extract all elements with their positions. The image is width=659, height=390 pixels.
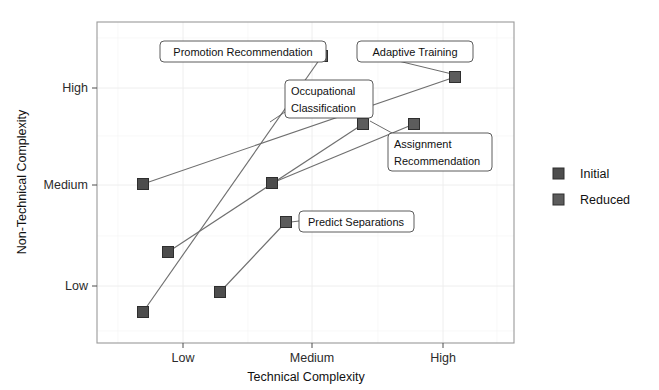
y-tick-label-high: High — [62, 81, 88, 95]
point-adaptive-reduced[interactable] — [450, 72, 461, 83]
y-tick-label-medium: Medium — [44, 178, 88, 192]
callout-label-predict-separations: Predict Separations — [308, 216, 404, 228]
legend-swatch-reduced — [553, 194, 564, 205]
legend-entry-initial[interactable]: Initial — [553, 167, 609, 181]
y-axis-ticks: High Medium Low — [44, 81, 97, 293]
plot-area: High Medium Low Low Medium High Technica… — [0, 0, 659, 390]
callout-predict-separations[interactable]: Predict Separations — [299, 211, 414, 232]
callout-label-occupational-classification-line2: Classification — [291, 102, 356, 114]
point-promotion-initial[interactable] — [138, 307, 149, 318]
point-adaptive-initial[interactable] — [138, 179, 149, 190]
legend-label-initial: Initial — [580, 167, 609, 181]
point-predict-initial[interactable] — [215, 287, 226, 298]
point-assignment-initial[interactable] — [267, 178, 278, 189]
x-tick-label-low: Low — [172, 351, 196, 365]
legend-swatch-initial — [553, 168, 564, 179]
y-axis-title: Non-Technical Complexity — [15, 109, 29, 254]
x-tick-label-high: High — [430, 351, 456, 365]
legend-entry-reduced[interactable]: Reduced — [553, 193, 630, 207]
callout-occupational-classification[interactable]: Occupational Classification — [285, 80, 373, 118]
callout-label-adaptive-training: Adaptive Training — [373, 46, 458, 58]
legend: Initial Reduced — [553, 167, 630, 207]
callout-label-promotion-recommendation: Promotion Recommendation — [173, 46, 312, 58]
y-tick-label-low: Low — [65, 279, 89, 293]
x-tick-label-medium: Medium — [290, 351, 334, 365]
callout-promotion-recommendation[interactable]: Promotion Recommendation — [160, 41, 326, 62]
callout-adaptive-training[interactable]: Adaptive Training — [357, 41, 473, 62]
point-predict-reduced[interactable] — [281, 217, 292, 228]
callout-assignment-recommendation[interactable]: Assignment Recommendation — [388, 133, 492, 171]
x-axis-title: Technical Complexity — [247, 370, 365, 384]
panel-background — [97, 22, 514, 343]
scatter-chart: High Medium Low Low Medium High Technica… — [0, 0, 659, 390]
callout-label-assignment-recommendation-line1: Assignment — [394, 138, 451, 150]
point-occupational-reduced[interactable] — [358, 119, 369, 130]
callout-label-occupational-classification-line1: Occupational — [291, 85, 355, 97]
callout-label-assignment-recommendation-line2: Recommendation — [394, 155, 480, 167]
point-occupational-initial[interactable] — [163, 247, 174, 258]
legend-label-reduced: Reduced — [580, 193, 630, 207]
x-axis-ticks: Low Medium High — [172, 343, 456, 365]
point-assignment-reduced[interactable] — [409, 119, 420, 130]
